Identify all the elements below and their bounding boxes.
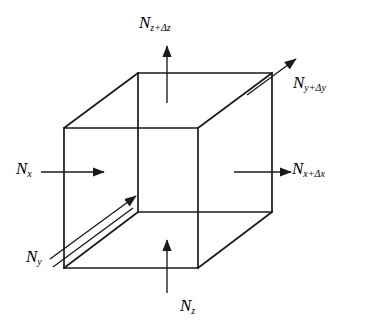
label-nx-plus-dx: Nx+Δx	[292, 160, 325, 179]
label-nz-plus-dz-symbol: N	[139, 13, 150, 32]
label-nz-plus-dz-subscript: z+Δz	[150, 22, 170, 33]
label-nx-symbol: N	[16, 159, 27, 178]
label-nz-symbol: N	[180, 296, 191, 315]
label-nx-plus-dx-subscript: x+Δx	[303, 168, 325, 179]
label-ny: Ny	[26, 248, 42, 267]
cube-wireframe	[64, 73, 272, 268]
cube-edge-top-right-connector	[198, 73, 272, 128]
arrow-ny-lower-line	[53, 208, 133, 267]
cube-back-face-edges	[138, 73, 272, 212]
label-ny-plus-dy: Ny+Δy	[293, 74, 326, 93]
label-ny-plus-dy-subscript: y+Δy	[304, 82, 326, 93]
label-nz-subscript: z	[191, 305, 195, 316]
label-ny-symbol: N	[26, 247, 37, 266]
label-nz-plus-dz: Nz+Δz	[139, 14, 171, 33]
label-nx-plus-dx-symbol: N	[292, 159, 303, 178]
cube-front-face-edges	[64, 128, 198, 268]
label-nz: Nz	[180, 297, 195, 316]
cube-edge-bottom-right-connector	[198, 212, 272, 268]
label-nx: Nx	[16, 160, 32, 179]
label-ny-plus-dy-symbol: N	[293, 73, 304, 92]
label-nx-subscript: x	[27, 168, 31, 179]
arrow-ny-upper-line	[50, 196, 136, 259]
cube-edge-top-left-connector	[64, 73, 138, 128]
flux-cube-diagram: Nz+Δz Ny+Δy Nx Nx+Δx Ny Nz	[0, 0, 365, 331]
label-ny-subscript: y	[37, 256, 41, 267]
